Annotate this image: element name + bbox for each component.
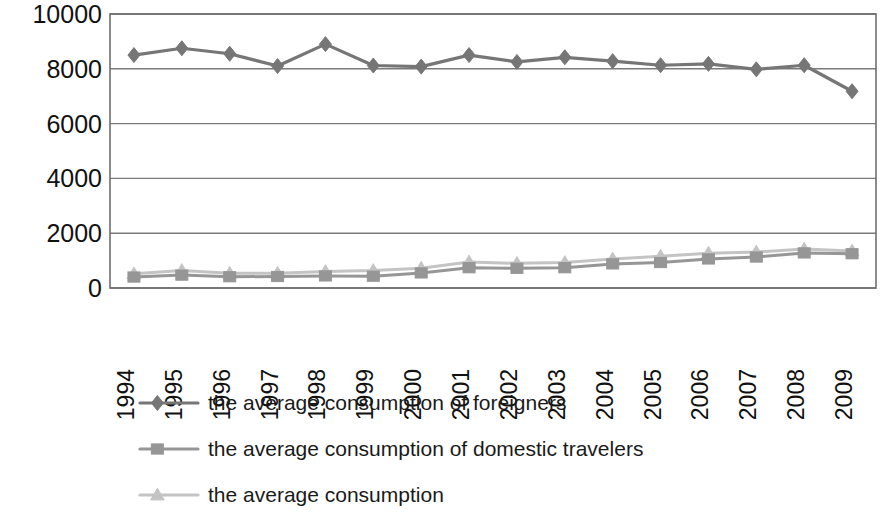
data-point-1-2005 (655, 257, 667, 267)
data-point-1-2002 (511, 263, 523, 273)
data-point-1-2000 (415, 268, 427, 278)
legend-label-1: the average consumption of domestic trav… (208, 437, 643, 460)
data-point-1-2006 (702, 254, 714, 264)
x-tick-label-2009: 2009 (831, 369, 857, 420)
chart-canvas: 0200040006000800010000 19941995199619971… (0, 0, 880, 517)
data-point-1-1997 (272, 271, 284, 281)
line-chart: 0200040006000800010000 19941995199619971… (0, 0, 880, 517)
data-point-1-1998 (319, 271, 331, 281)
y-tick-label-6000: 6000 (46, 110, 102, 138)
legend-label-0: the average consumption of foreigners (208, 391, 566, 414)
x-tick-label-2005: 2005 (640, 369, 666, 420)
data-point-1-2001 (463, 263, 475, 273)
x-tick-label-1994: 1994 (113, 369, 139, 420)
x-tick-label-1995: 1995 (161, 369, 187, 420)
square-marker (151, 444, 163, 454)
data-point-1-1996 (224, 272, 236, 282)
data-point-1-1994 (128, 272, 140, 282)
x-tick-label-2004: 2004 (592, 369, 618, 420)
data-point-1-2008 (798, 248, 810, 258)
data-point-1-1999 (367, 271, 379, 281)
x-tick-label-2006: 2006 (687, 369, 713, 420)
data-point-1-2007 (750, 252, 762, 262)
x-tick-label-2008: 2008 (783, 369, 809, 420)
data-point-1-1995 (176, 270, 188, 280)
y-tick-label-2000: 2000 (46, 219, 102, 247)
data-point-1-2003 (559, 263, 571, 273)
y-tick-label-4000: 4000 (46, 164, 102, 192)
data-point-1-2004 (607, 259, 619, 269)
data-point-1-2009 (846, 249, 858, 259)
legend-label-2: the average consumption (208, 483, 444, 506)
y-tick-label-0: 0 (88, 274, 102, 302)
x-tick-label-2007: 2007 (735, 369, 761, 420)
y-tick-label-10000: 10000 (32, 0, 102, 28)
legend-item-1[interactable]: the average consumption of domestic trav… (140, 437, 643, 460)
y-tick-label-8000: 8000 (46, 55, 102, 83)
